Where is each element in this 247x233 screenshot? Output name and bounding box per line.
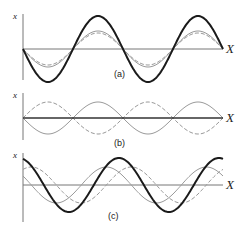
y-axis-label: x [12,90,17,100]
y-axis-label: x [12,11,17,21]
panel-caption: (b) [114,138,125,148]
panel-a: x X (a) [12,11,235,82]
x-axis-label: X [225,110,235,125]
x-axis-label: X [225,177,235,192]
panel-b: x X (b) [12,90,235,148]
panel-caption: (a) [114,69,125,79]
x-axis-label: X [225,41,235,56]
panel-caption: (c) [108,211,119,221]
panel-c: x X (c) [12,150,235,222]
wave-superposition-diagram: x X (a) x X (b) x X (c) [0,0,247,233]
y-axis-label: x [12,150,17,160]
